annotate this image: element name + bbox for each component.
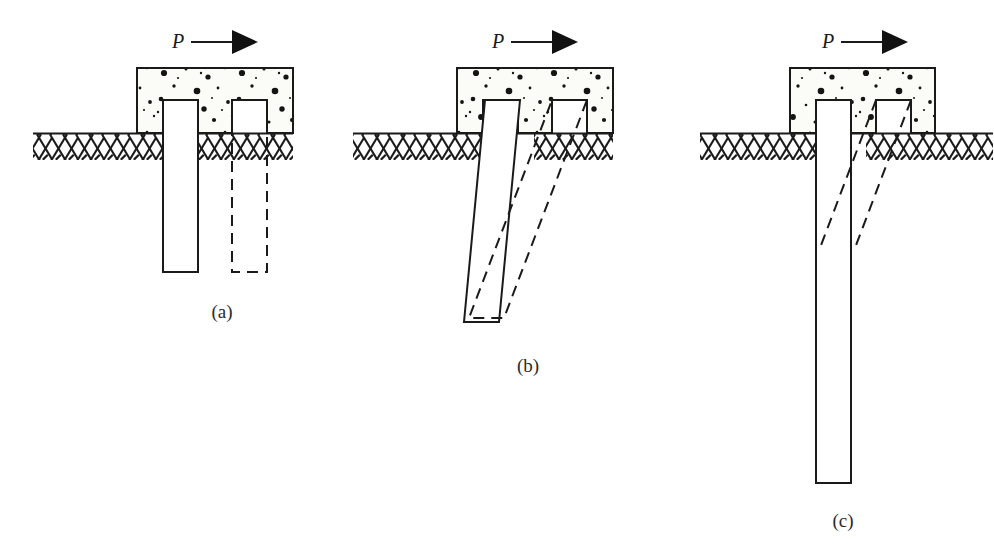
figure-root: P (a) P — [0, 0, 994, 547]
soil-hatch-b-left — [353, 134, 498, 160]
force-label-b: P — [491, 30, 504, 52]
panel-label-b: (b) — [517, 355, 539, 377]
soil-hatch-c-left — [700, 134, 816, 160]
pile-dashed-a — [232, 100, 267, 272]
pile-displaced-a — [232, 100, 267, 272]
cap-concrete-a — [137, 68, 293, 133]
cap-concrete-c — [790, 68, 935, 133]
arrow-head-a — [232, 30, 258, 54]
soil-hatch-c-right — [866, 134, 993, 160]
force-arrow-b: P — [491, 30, 578, 54]
cap-concrete-b — [457, 68, 613, 133]
pile-cap-c — [790, 68, 935, 133]
force-label-a: P — [171, 30, 184, 52]
pile-cap-a — [137, 68, 293, 133]
pile-cap-b — [457, 68, 613, 133]
pile-solid-long-c — [816, 100, 851, 483]
pile-solid-a — [163, 100, 198, 272]
panel-label-c: (c) — [832, 510, 853, 532]
arrow-head-b — [552, 30, 578, 54]
force-arrow-c: P — [821, 30, 908, 54]
panel-c: P (c) — [700, 30, 993, 532]
panel-b: P (b) — [353, 30, 613, 377]
panel-label-a: (a) — [211, 301, 232, 323]
pile-failure-modes-figure: P (a) P — [0, 0, 994, 547]
arrow-head-c — [882, 30, 908, 54]
panel-a: P (a) — [33, 30, 293, 323]
pile-original-c — [816, 100, 851, 483]
force-label-c: P — [821, 30, 834, 52]
force-arrow-a: P — [171, 30, 258, 54]
pile-original-a — [163, 100, 198, 272]
